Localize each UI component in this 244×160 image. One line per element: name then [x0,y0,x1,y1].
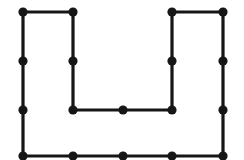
mid-notch-bottom-dot [118,105,127,114]
mid-right-edge-upper-dot [218,56,227,65]
corner-top-left-dot [18,7,27,16]
mid-left-edge-lower-dot [18,105,27,114]
mid-left-edge-upper-dot [18,56,27,65]
mid-bottom-edge-center-dot [118,151,127,160]
mid-right-edge-lower-dot [218,105,227,114]
mid-notch-left-edge-dot [68,56,77,65]
figure-canvas [0,0,244,160]
corner-notch-bottom-right-dot [167,105,176,114]
mid-notch-right-edge-dot [167,56,176,65]
polygon-outline-path [23,12,223,156]
mid-bottom-edge-left-dot [68,151,77,160]
corner-top-inner-right-dot [167,7,176,16]
corner-top-right-dot [218,7,227,16]
vertex-dot-group [18,7,227,160]
polygon-figure [0,0,244,160]
corner-top-inner-left-dot [68,7,77,16]
corner-notch-bottom-left-dot [68,105,77,114]
mid-bottom-edge-right-dot [167,151,176,160]
corner-bottom-left-dot [18,151,27,160]
corner-bottom-right-dot [218,151,227,160]
